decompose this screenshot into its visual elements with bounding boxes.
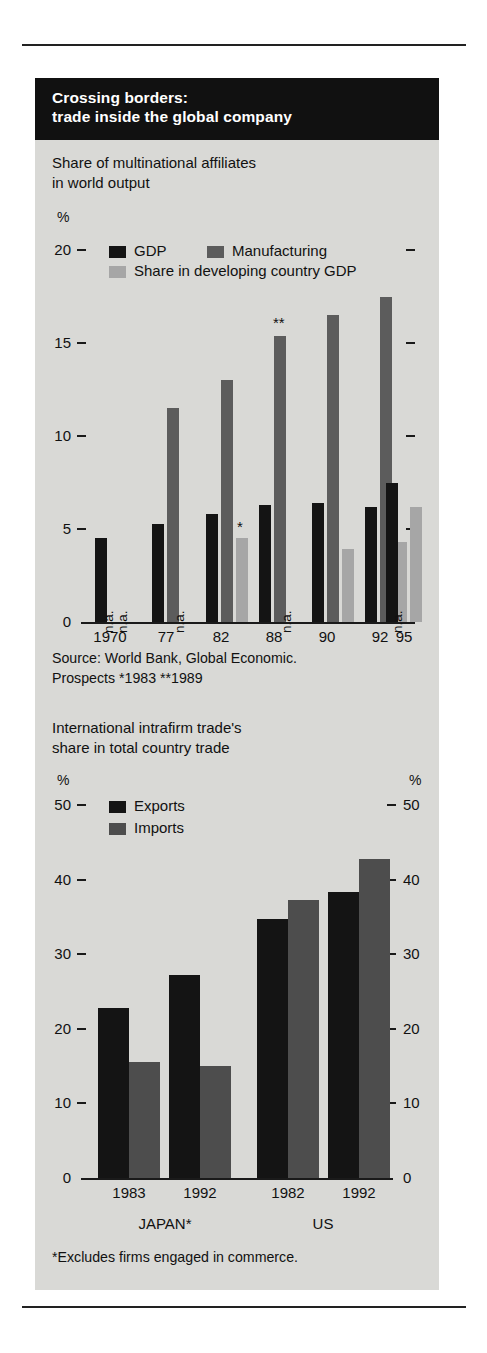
chart2-group-label-japan: JAPAN*	[105, 1215, 225, 1232]
chart2-ytick-50: 50	[37, 796, 71, 813]
chart2-bar-us-1992-imports	[359, 859, 390, 1178]
chart2-right-tick-mark-50	[387, 804, 396, 806]
chart2-ytick-mark-30	[77, 953, 86, 955]
chart2-ytick-mark-20	[77, 1028, 86, 1030]
chart2-bar-japan-1992-imports	[200, 1066, 231, 1178]
chart1-source-line-2: Prospects *1983 **1989	[52, 670, 203, 686]
chart2-ytick-mark-50	[77, 804, 86, 806]
chart2-ytick-30: 30	[37, 945, 71, 962]
infographic-panel: Crossing borders: trade inside the globa…	[35, 78, 439, 1290]
chart2-bar-us-1982-imports	[288, 900, 319, 1178]
chart2-legend-label-exports: Exports	[134, 797, 185, 814]
chart2-right-ytick-50: 50	[403, 796, 437, 813]
chart2-xtick-japan-1983: 1983	[99, 1184, 159, 1201]
page-rule-top	[22, 44, 466, 46]
chart-2-intrafirm-trade: 50 40 30 20 10 0 50 40 30 20 10 0 E	[35, 718, 439, 1290]
chart1-bar-95-gdp	[386, 483, 398, 622]
chart2-right-ytick-30: 30	[403, 945, 437, 962]
chart2-right-ytick-40: 40	[403, 871, 437, 888]
chart2-legend-swatch-imports	[109, 823, 126, 835]
chart1-xtick-95: 95	[381, 628, 427, 645]
chart2-bar-japan-1992-exports	[169, 975, 200, 1178]
chart2-ytick-mark-10	[77, 1102, 86, 1104]
chart1-bar-95-developing	[410, 507, 422, 622]
chart2-group-label-us: US	[263, 1215, 383, 1232]
chart2-ytick-0: 0	[37, 1169, 71, 1186]
chart2-xtick-us-1992: 1992	[329, 1184, 389, 1201]
chart1-source-line-1: Source: World Bank, Global Economic.	[52, 650, 297, 666]
chart2-ytick-mark-40	[77, 879, 86, 881]
chart2-right-ytick-0: 0	[403, 1169, 437, 1186]
chart2-xtick-japan-1992: 1992	[170, 1184, 230, 1201]
chart2-footnote: *Excludes firms engaged in commerce.	[52, 1249, 298, 1265]
chart2-ytick-20: 20	[37, 1020, 71, 1037]
chart2-bar-japan-1983-imports	[129, 1062, 160, 1178]
chart2-x-axis	[81, 1178, 393, 1180]
chart2-bar-us-1982-exports	[257, 919, 288, 1178]
chart2-ytick-10: 10	[37, 1094, 71, 1111]
chart2-bar-us-1992-exports	[328, 892, 359, 1178]
chart2-legend-label-imports: Imports	[134, 819, 184, 836]
chart2-right-ytick-20: 20	[403, 1020, 437, 1037]
chart2-ytick-40: 40	[37, 871, 71, 888]
chart1-bars-95	[35, 78, 439, 638]
chart2-xtick-us-1982: 1982	[258, 1184, 318, 1201]
figure-page: Crossing borders: trade inside the globa…	[0, 0, 487, 1353]
chart2-right-ytick-10: 10	[403, 1094, 437, 1111]
page-rule-bottom	[22, 1306, 466, 1308]
chart2-bar-japan-1983-exports	[98, 1008, 129, 1178]
chart2-legend-swatch-exports	[109, 801, 126, 813]
